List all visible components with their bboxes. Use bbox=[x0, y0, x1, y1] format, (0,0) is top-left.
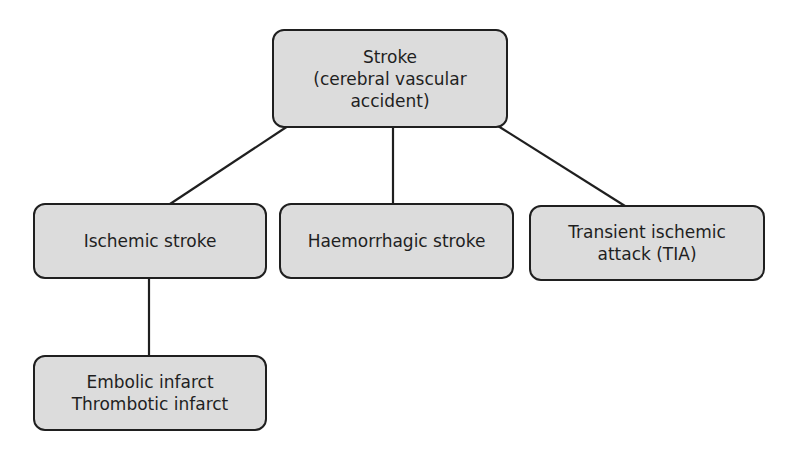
node-stroke-root: Stroke (cerebral vascular accident) bbox=[272, 29, 508, 128]
node-text-line: Embolic infarct bbox=[86, 371, 213, 393]
node-text-line: Transient ischemic bbox=[568, 221, 726, 243]
node-text-line: (cerebral vascular bbox=[313, 68, 466, 90]
node-text-line: Ischemic stroke bbox=[84, 230, 217, 252]
node-infarct-types: Embolic infarct Thrombotic infarct bbox=[33, 355, 267, 431]
edge-root-tia bbox=[498, 126, 625, 206]
node-text-line: Stroke bbox=[363, 46, 417, 68]
node-transient-ischemic-attack: Transient ischemic attack (TIA) bbox=[529, 205, 765, 281]
edge-root-ischemic bbox=[170, 126, 288, 204]
node-haemorrhagic-stroke: Haemorrhagic stroke bbox=[279, 203, 514, 279]
node-text-line: attack (TIA) bbox=[597, 243, 696, 265]
node-text-line: Thrombotic infarct bbox=[72, 393, 229, 415]
node-text-line: accident) bbox=[350, 90, 429, 112]
node-text-line: Haemorrhagic stroke bbox=[308, 230, 486, 252]
node-ischemic-stroke: Ischemic stroke bbox=[33, 203, 267, 279]
